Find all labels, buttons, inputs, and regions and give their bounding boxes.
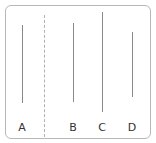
label-a: A — [18, 122, 26, 133]
line-d — [132, 32, 133, 97]
line-c — [102, 12, 103, 112]
label-d: D — [128, 122, 136, 133]
label-c: C — [98, 122, 106, 133]
diagram-frame — [5, 5, 151, 139]
line-a — [22, 25, 23, 103]
label-b: B — [69, 122, 77, 133]
line-b — [73, 23, 74, 102]
dashed-separator — [44, 15, 45, 137]
